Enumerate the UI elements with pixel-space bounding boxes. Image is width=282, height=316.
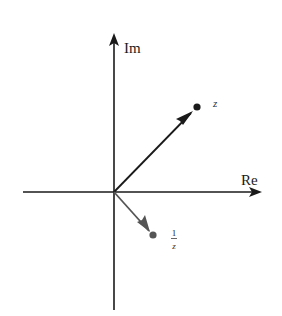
- vector-z: [114, 103, 201, 192]
- reciprocal-label: 1 z: [171, 228, 177, 251]
- real-axis: [23, 187, 262, 197]
- vector-reciprocal-arrowhead-icon: [137, 215, 150, 232]
- diagram-canvas: Im Re z 1 z: [0, 0, 282, 316]
- vector-reciprocal: [114, 192, 157, 239]
- reciprocal-label-denominator: z: [171, 241, 176, 251]
- z-label: z: [212, 97, 218, 109]
- reciprocal-label-numerator: 1: [172, 228, 177, 238]
- point-z: [193, 103, 200, 110]
- imaginary-axis: [109, 33, 119, 310]
- real-axis-label: Re: [241, 172, 258, 188]
- imaginary-axis-label: Im: [124, 40, 141, 56]
- point-reciprocal: [149, 231, 156, 238]
- complex-plane-diagram: Im Re z 1 z: [0, 0, 282, 316]
- vector-z-arrowhead-icon: [176, 111, 193, 125]
